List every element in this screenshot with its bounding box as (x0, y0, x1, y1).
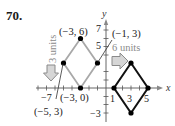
vertex-label-neg3-6: (−3, 6) (59, 26, 88, 38)
tick-x-neg7: −7 (41, 92, 52, 103)
x-axis: x (36, 82, 171, 93)
vertex-label-neg5-3: (−5, 3) (34, 106, 63, 118)
y-axis: y (101, 8, 109, 122)
problem-number: 70. (6, 8, 22, 23)
translation-diagram: 70. x y −7 1 3 5 7 5 −3 (0, 0, 175, 126)
tick-y-neg3: −3 (90, 108, 101, 119)
tick-x-3: 3 (127, 93, 132, 104)
original-diamond (64, 39, 98, 89)
tick-y-5: 5 (96, 40, 101, 51)
y-axis-label: y (101, 8, 107, 19)
tick-y-7: 7 (96, 23, 101, 34)
down-arrow-icon (44, 65, 59, 81)
vertex-label-neg3-0: (−3, 0) (60, 92, 89, 104)
tick-x-5: 5 (144, 93, 149, 104)
down-shift-label: 3 units (47, 35, 58, 63)
right-arrow-icon (112, 53, 128, 69)
vertex-label-neg1-3: (−1, 3) (112, 28, 141, 40)
tick-x-1: 1 (110, 93, 115, 104)
x-axis-label: x (165, 82, 171, 93)
right-shift-label: 6 units (112, 42, 140, 53)
